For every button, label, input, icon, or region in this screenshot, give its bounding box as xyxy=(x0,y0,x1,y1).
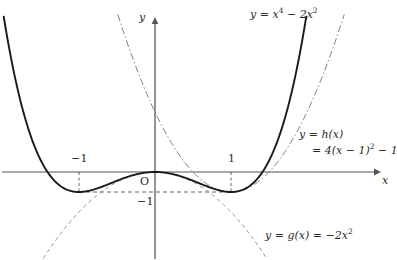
h-label-line2-post: − 1 xyxy=(375,143,397,156)
h-label-line2: = 4(x − 1)2 − 1 xyxy=(299,142,397,157)
y-axis-label: y xyxy=(139,11,145,25)
g-label-exp: 2 xyxy=(348,227,353,236)
y-axis-arrowhead xyxy=(152,17,159,24)
h-label-line2-pre: = 4(x − 1) xyxy=(312,143,370,156)
curves-group xyxy=(4,14,344,258)
quartic-label-lhs: y = x xyxy=(250,8,279,21)
curve-label-h: y = h(x) = 4(x − 1)2 − 1 xyxy=(299,128,397,157)
curve-label-g: y = g(x) = −2x2 xyxy=(265,227,353,242)
x-tick-label-1: 1 xyxy=(228,152,235,166)
x-axis-label: x xyxy=(382,174,388,188)
g-label-pre: y = g(x) = −2x xyxy=(265,229,348,242)
origin-label: O xyxy=(140,175,149,189)
curve-label-quartic: y = x4 − 2x2 xyxy=(250,6,318,21)
h-label-line1: y = h(x) xyxy=(299,128,343,141)
quartic-label-exp2: 2 xyxy=(313,6,318,15)
quartic-label-mid: − 2x xyxy=(283,8,312,21)
y-tick-label-minus1: −1 xyxy=(137,195,154,209)
x-axis-arrowhead xyxy=(374,169,381,176)
x-tick-label-minus1: −1 xyxy=(71,152,88,166)
function-graph-figure: y = x4 − 2x2 y = h(x) = 4(x − 1)2 − 1 y … xyxy=(0,0,397,260)
